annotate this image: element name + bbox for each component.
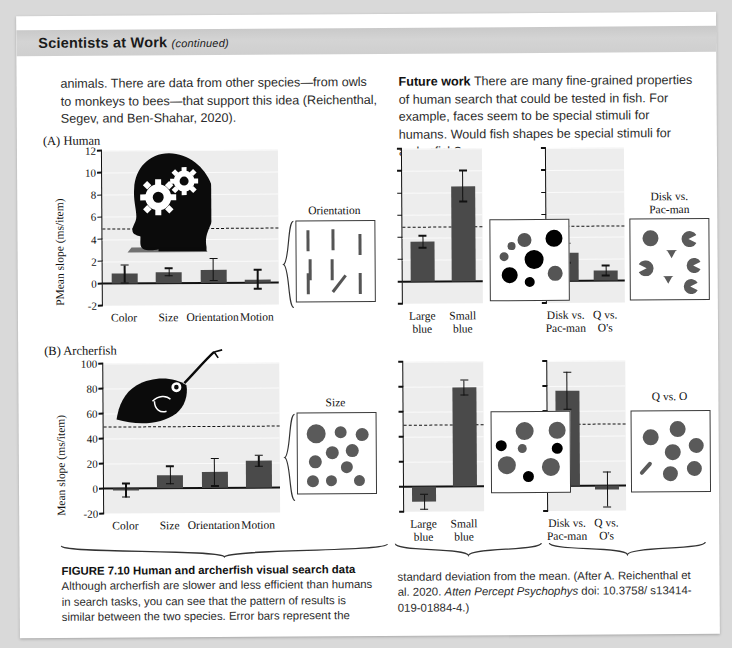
error-bar-cap xyxy=(121,282,129,283)
error-bar-cap xyxy=(165,275,173,276)
x-axis-tick-label: Q vs. O's xyxy=(581,308,629,333)
y-axis-tick-label: 80 xyxy=(67,383,97,395)
panel-a-ylabel: PMean slope (ms/item) xyxy=(53,199,66,306)
y-axis-tick xyxy=(398,303,403,304)
y-axis-tick xyxy=(98,261,103,262)
x-axis-tick-label: Q vs. O's xyxy=(583,516,631,541)
y-axis-tick-label: -2 xyxy=(67,300,97,312)
error-bar-cap xyxy=(459,201,467,202)
x-axis-tick-label: Motion xyxy=(231,311,283,324)
error-bar-cap xyxy=(165,267,173,268)
figure-caption-left: FIGURE 7.10 Human and archerfish visual … xyxy=(61,562,381,626)
chart-human-large-small-blue xyxy=(401,148,483,303)
section-header-continued: (continued) xyxy=(172,37,229,49)
error-bar-cap xyxy=(603,506,611,507)
archerfish-icon xyxy=(114,347,225,433)
journal-name: Atten Percept Psychophys xyxy=(444,585,578,598)
stim-title-q-vs-o: Q vs. O xyxy=(630,390,708,403)
x-axis-tick-label: Small blue xyxy=(438,309,487,334)
y-axis-tick-label: 100 xyxy=(67,358,97,370)
y-axis-tick xyxy=(97,239,102,240)
error-bar-cap xyxy=(420,493,428,494)
section-header-title: Scientists at Work (continued) xyxy=(38,34,229,51)
error-bar-cap xyxy=(419,235,427,236)
figure-number: FIGURE 7.10 xyxy=(61,564,129,576)
error-bar xyxy=(424,494,425,509)
figure-caption-body: Although archerfish are slower and less … xyxy=(62,578,373,623)
y-axis-tick xyxy=(542,302,547,303)
error-bar-cap xyxy=(166,483,174,484)
error-bar-cap xyxy=(460,379,468,380)
caption-right-line2c: doi: 10.3758/ xyxy=(578,585,647,597)
y-axis-tick xyxy=(399,461,404,462)
brace-bottom-right xyxy=(547,540,707,557)
y-axis-tick xyxy=(541,214,546,215)
y-axis-tick xyxy=(399,486,404,487)
section-header-text: Scientists at Work xyxy=(38,34,167,51)
y-axis-tick xyxy=(542,360,547,361)
gridline xyxy=(103,260,279,262)
panel-b-name: Archerfish xyxy=(63,344,117,358)
y-axis-tick xyxy=(397,148,402,149)
stim-box-large-small-blue-b xyxy=(491,411,571,493)
stim-box-disk-pacman xyxy=(629,218,709,300)
y-axis-tick xyxy=(97,194,102,195)
error-bar-cap xyxy=(419,247,427,248)
y-axis-tick-label: 12 xyxy=(66,145,96,157)
y-axis-tick xyxy=(397,237,402,238)
error-bar xyxy=(214,459,216,487)
error-bar-cap xyxy=(122,497,130,498)
error-bar-cap xyxy=(460,394,468,395)
y-axis-tick xyxy=(541,169,546,170)
body-paragraph-left: animals. There are data from other speci… xyxy=(60,74,380,128)
error-bar xyxy=(463,380,464,395)
error-bar-cap xyxy=(121,264,129,265)
error-bar-cap xyxy=(209,258,217,259)
gridline xyxy=(402,170,482,171)
page-container: Scientists at Work (continued) animals. … xyxy=(16,12,720,638)
error-bar xyxy=(213,258,215,280)
stim-title-size: Size xyxy=(296,396,374,409)
figure-caption-right: standard deviation from the mean. (After… xyxy=(397,568,697,616)
error-bar-cap xyxy=(602,275,610,276)
y-axis-tick xyxy=(399,411,404,412)
brace-panel-a-left xyxy=(281,219,296,309)
y-axis-tick xyxy=(99,488,104,489)
gridline xyxy=(104,438,280,440)
y-axis-tick xyxy=(98,363,103,364)
error-bar-cap xyxy=(255,466,263,467)
brace-bottom-left xyxy=(59,542,389,560)
error-bar-cap xyxy=(255,454,263,455)
error-bar xyxy=(257,270,259,289)
y-axis-tick xyxy=(398,259,403,260)
y-axis-tick xyxy=(542,385,547,386)
y-axis-tick xyxy=(99,413,104,414)
error-bar-cap xyxy=(166,466,174,467)
error-bar-cap xyxy=(209,280,217,281)
y-axis-tick xyxy=(398,386,403,387)
chart-archerfish-large-small-blue xyxy=(402,361,484,511)
gridline xyxy=(402,148,482,149)
error-bar-cap xyxy=(459,170,467,171)
gridline xyxy=(547,385,625,386)
error-bar-cap xyxy=(211,485,219,486)
stim-box-orientation xyxy=(295,220,375,302)
stim-title-orientation: Orientation xyxy=(295,204,373,217)
error-bar xyxy=(125,483,126,497)
error-bar-cap xyxy=(122,483,130,484)
x-axis-tick-label: Small blue xyxy=(440,517,489,542)
y-axis-tick xyxy=(97,150,102,151)
error-bar-cap xyxy=(563,371,571,372)
future-work-lead: Future work xyxy=(398,74,470,88)
stim-box-q-vs-o xyxy=(631,410,711,492)
error-bar xyxy=(566,372,568,410)
brace-bottom-mid xyxy=(393,541,543,558)
error-bar xyxy=(422,236,423,248)
gridline xyxy=(546,170,624,171)
y-axis-tick xyxy=(99,513,104,514)
y-axis-tick-label: 6 xyxy=(66,211,96,223)
gridline xyxy=(403,361,483,362)
caption-right-line1: standard deviation from the mean. (After… xyxy=(398,569,679,583)
stim-box-size xyxy=(297,412,377,494)
y-axis-tick xyxy=(398,281,403,282)
